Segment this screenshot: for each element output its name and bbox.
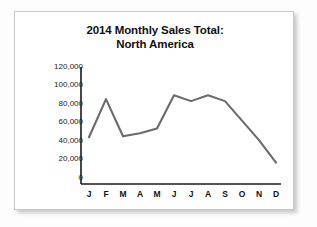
x-axis-tick-label-jul: J — [184, 190, 198, 199]
x-axis-tick-label-dec: D — [269, 190, 283, 199]
y-axis-tick-label-80000: 80,000 — [35, 100, 83, 108]
data-series-line — [89, 95, 276, 162]
plot-area: 120,000 100,000 80,000 60,000 40,000 20,… — [15, 12, 295, 211]
x-axis-tick-label-apr: A — [133, 190, 147, 199]
y-axis-tick-label-120000: 120,000 — [35, 63, 83, 71]
chart-card: 2014 Monthly Sales Total: North America … — [14, 11, 294, 210]
x-axis-tick-label-sep: S — [218, 190, 232, 199]
y-axis-tick-label-0: 0 — [35, 174, 83, 182]
y-axis-tick-label-100000: 100,000 — [35, 81, 83, 89]
x-axis-tick-label-jun: J — [167, 190, 181, 199]
x-axis-tick-label-aug: A — [201, 190, 215, 199]
screenshot-root: 2014 Monthly Sales Total: North America … — [0, 0, 317, 227]
x-axis-tick-label-jan: J — [82, 190, 96, 199]
y-axis-tick-label-40000: 40,000 — [35, 137, 83, 145]
y-axis-tick-label-60000: 60,000 — [35, 118, 83, 126]
x-axis-tick-label-oct: O — [235, 190, 249, 199]
x-axis-tick-label-mar: M — [116, 190, 130, 199]
x-axis-tick-label-may: M — [150, 190, 164, 199]
y-axis-tick-label-20000: 20,000 — [35, 155, 83, 163]
x-axis-tick-label-feb: F — [99, 190, 113, 199]
x-axis-tick-label-nov: N — [252, 190, 266, 199]
